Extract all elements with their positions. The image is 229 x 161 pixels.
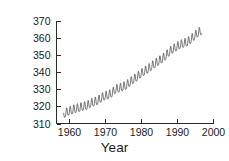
co2-concentration-chart: 310320330340350360370 196019701980199020… bbox=[0, 0, 229, 161]
y-tick-label: 320 bbox=[33, 100, 51, 112]
x-axis-tick-marks bbox=[70, 119, 214, 124]
co2-line-path bbox=[64, 27, 202, 117]
y-tick-label: 330 bbox=[33, 83, 51, 95]
y-tick-label: 370 bbox=[33, 15, 51, 27]
y-tick-label: 310 bbox=[33, 118, 51, 130]
x-tick-label: 1970 bbox=[94, 126, 118, 138]
chart-plot-area: 310320330340350360370 196019701980199020… bbox=[0, 0, 229, 161]
x-tick-label: 2000 bbox=[202, 126, 226, 138]
x-tick-label: 1960 bbox=[58, 126, 82, 138]
y-tick-label: 350 bbox=[33, 49, 51, 61]
y-tick-label: 340 bbox=[33, 66, 51, 78]
x-tick-label: 1980 bbox=[130, 126, 154, 138]
x-axis-label: Year bbox=[0, 140, 229, 155]
co2-series bbox=[64, 27, 202, 117]
y-axis-tick-marks bbox=[57, 22, 62, 125]
x-tick-label: 1990 bbox=[166, 126, 190, 138]
x-axis-tick-labels: 19601970198019902000 bbox=[58, 126, 226, 138]
y-axis-tick-labels: 310320330340350360370 bbox=[33, 15, 51, 130]
y-tick-label: 360 bbox=[33, 32, 51, 44]
